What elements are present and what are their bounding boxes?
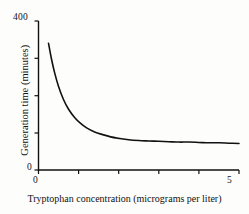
y-axis-max-tick-label: 400: [13, 13, 28, 23]
x-axis-max-tick-label: 5: [227, 176, 232, 186]
data-curve-series-0: [49, 43, 239, 143]
axes-group: [38, 21, 239, 171]
chart-figure: 400 0 0 5 Generation time (minutes) Tryp…: [0, 0, 249, 214]
x-axis-min-tick-label: 0: [33, 176, 38, 186]
x-axis-title: Tryptophan concentration (micrograms per…: [0, 194, 249, 204]
y-axis-title: Generation time (minutes): [20, 30, 31, 170]
